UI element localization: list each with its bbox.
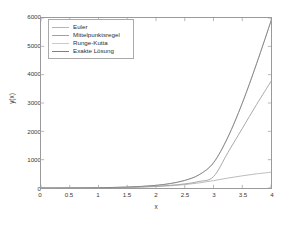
series-line-2: [41, 81, 271, 188]
y-tick-label: 5000: [1, 43, 41, 49]
y-tick-label: 6000: [1, 14, 41, 20]
x-tick-label: 2: [141, 192, 171, 198]
x-tick-label: 1.5: [112, 192, 142, 198]
legend-item-label: Exakte Lösung: [73, 48, 114, 54]
x-tick-label: 0: [25, 192, 55, 198]
legend-line-swatch: [52, 35, 69, 36]
x-tick-label: 1: [83, 192, 113, 198]
x-tick-label: 0.5: [54, 192, 84, 198]
x-tick-label: 4: [257, 192, 287, 198]
legend-item-label: Euler: [73, 24, 87, 30]
chart-legend: EulerMittelpunktsregelRunge-KuttaExakte …: [48, 19, 134, 59]
y-tick-label: 4000: [1, 71, 41, 77]
chart-figure: 0100020003000400050006000 y(x) 00.511.52…: [0, 0, 292, 234]
x-tick-label: 2.5: [170, 192, 200, 198]
legend-line-swatch: [52, 43, 69, 44]
legend-line-swatch: [52, 27, 69, 28]
legend-item-label: Mittelpunktsregel: [73, 32, 120, 38]
x-tick-label: 3: [199, 192, 229, 198]
legend-line-swatch: [52, 51, 69, 52]
legend-item-label: Runge-Kutta: [73, 40, 108, 46]
y-tick-label: 2000: [1, 129, 41, 135]
legend-item-4[interactable]: Exakte Lösung: [49, 47, 133, 55]
legend-item-1[interactable]: Euler: [49, 23, 133, 31]
legend-item-2[interactable]: Mittelpunktsregel: [49, 31, 133, 39]
x-axis-label: x: [40, 203, 272, 210]
legend-item-3[interactable]: Runge-Kutta: [49, 39, 133, 47]
y-axis-label: y(x): [8, 79, 15, 119]
y-tick-label: 1000: [1, 157, 41, 163]
x-tick-label: 3.5: [228, 192, 258, 198]
